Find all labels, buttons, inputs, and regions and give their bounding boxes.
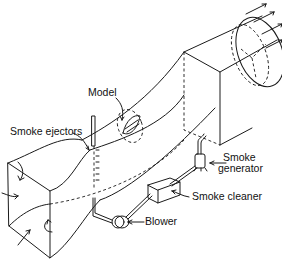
blower-label: Blower: [145, 216, 177, 227]
inlet-flow-arrows: [2, 162, 52, 245]
smoke-cleaner-label: Smoke cleaner: [192, 191, 262, 202]
exit-flow-arrows: [246, 4, 282, 48]
smoke-ejectors-label: Smoke ejectors: [10, 126, 82, 137]
smoke-generator: [194, 134, 207, 171]
exit-fan: [224, 11, 282, 94]
smoke-cleaner: [148, 166, 197, 203]
smoke-ejectors: [92, 116, 99, 188]
model-label: Model: [88, 87, 117, 98]
smoke-generator-label-line2: generator: [218, 163, 263, 174]
